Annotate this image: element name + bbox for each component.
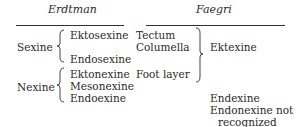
mesonexine: Mesonexine (70, 80, 134, 92)
ektexine: Ektexine (210, 41, 257, 53)
erdtman-rule (16, 25, 124, 26)
erdtman-header: Erdtman (48, 4, 97, 16)
endonexine-note-line2: recognized (218, 116, 277, 127)
ektonexine: Ektonexine (70, 68, 130, 80)
nexine-brace-icon (56, 67, 66, 103)
tectum: Tectum (136, 29, 175, 41)
sexine-brace-icon (56, 29, 66, 63)
faegri-rule (146, 25, 285, 26)
faegri-header: Faegri (196, 4, 232, 16)
columella: Columella (136, 41, 190, 53)
endoexine: Endoexine (70, 92, 126, 104)
foot-layer: Foot layer (136, 68, 190, 80)
ektexine-brace-icon (194, 27, 204, 83)
nexine-label: Nexine (17, 81, 55, 93)
endexine: Endexine (210, 92, 260, 104)
sexine-label: Sexine (17, 41, 53, 53)
endosexine: Endosexine (70, 53, 131, 65)
endonexine-note-line1: Endonexine not (210, 104, 293, 116)
ektosexine: Ektosexine (70, 29, 128, 41)
